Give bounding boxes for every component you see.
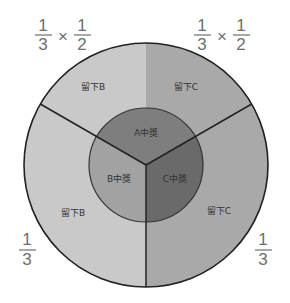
svg-text:1: 1 [236, 16, 245, 35]
label-outer-top-right: 留下C [174, 81, 198, 92]
svg-text:1: 1 [77, 16, 86, 35]
svg-text:1: 1 [197, 16, 206, 35]
label-outer-top-left: 留下B [81, 81, 105, 92]
svg-text:1: 1 [38, 16, 47, 35]
probability-circle-diagram: 留下B 留下C 留下B 留下C A中獎 B中獎 C中獎 1 3 × 1 2 1 … [0, 0, 290, 303]
svg-text:3: 3 [258, 250, 267, 269]
fraction-bottom-right: 1 3 [255, 230, 272, 269]
svg-text:3: 3 [197, 35, 206, 54]
fraction-top-left: 1 3 × 1 2 [35, 16, 91, 54]
svg-text:2: 2 [77, 35, 86, 54]
svg-text:1: 1 [22, 230, 31, 249]
svg-text:3: 3 [22, 250, 31, 269]
fraction-top-right: 1 3 × 1 2 [194, 16, 250, 54]
svg-text:×: × [58, 27, 68, 46]
fraction-bottom-left: 1 3 [19, 230, 36, 269]
label-inner-left: B中獎 [107, 173, 131, 184]
label-outer-bottom-left: 留下B [61, 207, 85, 218]
label-outer-bottom-right: 留下C [207, 205, 231, 216]
svg-text:1: 1 [258, 230, 267, 249]
label-inner-top: A中獎 [134, 127, 158, 138]
label-inner-right: C中獎 [163, 173, 187, 184]
svg-text:×: × [217, 27, 227, 46]
svg-text:3: 3 [38, 35, 47, 54]
svg-text:2: 2 [236, 35, 245, 54]
